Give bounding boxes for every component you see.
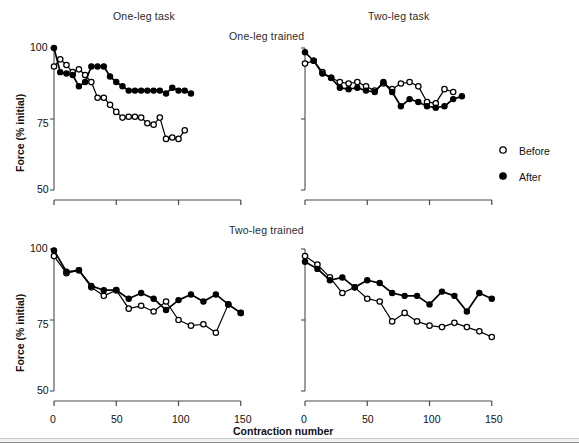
column-title-two-leg-task: Two-leg task	[368, 10, 429, 22]
data-point-before-top-right	[346, 81, 351, 86]
y-axis-label-bottom: Force (% initial)	[14, 294, 26, 372]
legend-label-after: After	[519, 171, 541, 183]
data-point-before-top-left	[101, 95, 106, 100]
data-point-after-top-right	[433, 105, 438, 110]
data-point-after-top-left	[101, 64, 106, 69]
data-point-after-bottom-left	[89, 283, 94, 288]
row-title-two-leg-trained: Two-leg trained	[229, 224, 304, 236]
x-tick-right-100: 100	[423, 413, 441, 425]
data-point-after-top-left	[126, 88, 131, 93]
data-point-after-bottom-right	[365, 278, 370, 283]
data-point-after-bottom-right	[489, 296, 494, 301]
data-point-before-top-right	[355, 79, 360, 84]
data-point-after-top-right	[329, 75, 334, 80]
series-line-before-bottom-right	[305, 256, 492, 337]
data-point-before-top-left	[114, 109, 119, 114]
legend-markers	[500, 147, 506, 179]
data-point-after-bottom-left	[188, 292, 193, 297]
data-point-after-bottom-right	[402, 293, 407, 298]
data-point-before-bottom-right	[439, 324, 444, 329]
data-point-before-bottom-right	[302, 253, 307, 258]
data-point-after-top-right	[424, 104, 429, 109]
data-point-before-top-left	[170, 135, 175, 140]
data-point-before-bottom-left	[126, 306, 131, 311]
data-point-after-bottom-right	[340, 275, 345, 280]
data-point-before-bottom-right	[402, 310, 407, 315]
plot-canvas	[0, 0, 579, 443]
row-title-one-leg-trained: One-leg trained	[229, 30, 304, 42]
data-point-before-bottom-right	[365, 296, 370, 301]
data-point-before-top-left	[120, 115, 125, 120]
data-point-after-top-left	[89, 64, 94, 69]
data-point-after-top-left	[139, 88, 144, 93]
data-point-before-top-left	[151, 122, 156, 127]
y-tick-top-50: 50	[37, 183, 49, 195]
data-point-after-top-left	[151, 88, 156, 93]
data-point-after-top-left	[182, 88, 187, 93]
series-layer	[51, 45, 494, 339]
data-point-after-top-left	[83, 79, 88, 84]
data-point-after-top-right	[337, 85, 342, 90]
data-point-before-top-left	[76, 67, 81, 72]
data-point-after-bottom-left	[101, 288, 106, 293]
data-point-after-bottom-left	[76, 268, 81, 273]
data-point-after-bottom-left	[64, 269, 69, 274]
data-point-after-top-right	[416, 99, 421, 104]
data-point-after-bottom-left	[126, 296, 131, 301]
data-point-after-bottom-right	[427, 302, 432, 307]
data-point-after-bottom-right	[352, 285, 357, 290]
data-point-after-top-left	[70, 72, 75, 77]
data-point-before-bottom-right	[389, 319, 394, 324]
y-tick-bottom-75: 75	[37, 318, 49, 330]
data-point-before-bottom-left	[138, 303, 143, 308]
bottom-divider	[0, 438, 579, 443]
data-point-before-bottom-right	[377, 299, 382, 304]
series-line-after-bottom-left	[54, 250, 241, 312]
data-point-after-bottom-left	[51, 248, 56, 253]
data-point-after-top-left	[107, 74, 112, 79]
data-point-after-top-right	[381, 79, 386, 84]
data-point-before-top-left	[132, 114, 137, 119]
data-point-after-top-left	[170, 85, 175, 90]
data-point-before-top-right	[398, 81, 403, 86]
x-tick-left-0: 0	[50, 413, 56, 425]
data-point-before-bottom-left	[213, 330, 218, 335]
data-point-after-top-left	[157, 88, 162, 93]
data-point-after-top-left	[188, 91, 193, 96]
data-point-before-top-left	[138, 115, 143, 120]
data-point-before-bottom-left	[176, 317, 181, 322]
x-tick-right-150: 150	[485, 413, 503, 425]
data-point-before-top-right	[407, 79, 412, 84]
data-point-after-top-left	[76, 84, 81, 89]
data-point-before-bottom-left	[151, 309, 156, 314]
data-point-before-bottom-right	[489, 334, 494, 339]
data-point-after-bottom-right	[302, 259, 307, 264]
data-point-before-top-left	[51, 64, 56, 69]
data-point-before-top-left	[182, 128, 187, 133]
data-point-after-bottom-right	[377, 280, 382, 285]
data-point-before-bottom-left	[201, 322, 206, 327]
data-point-before-top-left	[95, 95, 100, 100]
data-point-before-top-left	[157, 115, 162, 120]
x-tick-left-100: 100	[172, 413, 190, 425]
data-point-after-bottom-right	[464, 309, 469, 314]
legend-label-before: Before	[519, 145, 550, 157]
data-point-after-bottom-right	[390, 290, 395, 295]
data-point-after-top-right	[302, 50, 307, 55]
data-point-before-top-left	[126, 114, 131, 119]
data-point-after-top-left	[132, 88, 137, 93]
data-point-after-top-left	[58, 70, 63, 75]
data-point-before-bottom-right	[477, 329, 482, 334]
x-tick-right-50: 50	[362, 413, 374, 425]
data-point-before-top-left	[107, 102, 112, 107]
legend-marker-before-open-circle	[500, 147, 506, 153]
x-tick-left-50: 50	[111, 413, 123, 425]
data-point-after-top-right	[451, 97, 456, 102]
data-point-after-bottom-right	[439, 289, 444, 294]
data-point-after-top-right	[355, 85, 360, 90]
y-tick-bottom-100: 100	[30, 242, 48, 254]
data-point-before-bottom-right	[464, 324, 469, 329]
data-point-after-bottom-left	[114, 288, 119, 293]
data-point-after-bottom-left	[139, 290, 144, 295]
data-point-before-top-left	[58, 57, 63, 62]
